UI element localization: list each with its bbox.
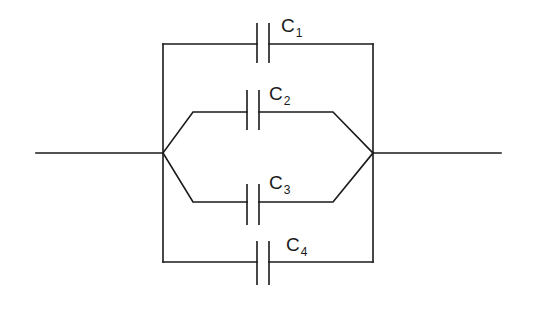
c2-label-symbol: C — [269, 83, 283, 104]
c2-label-subscript: 2 — [284, 94, 291, 108]
c3-branch — [163, 153, 373, 225]
c4-label-subscript: 4 — [301, 245, 308, 259]
c3-label: C3 — [269, 173, 290, 192]
c2-branch — [163, 90, 373, 153]
c1-branch — [163, 23, 373, 63]
c1-label: C1 — [281, 16, 302, 35]
c4-label-symbol: C — [286, 234, 300, 255]
c3-label-symbol: C — [269, 172, 283, 193]
c1-label-subscript: 1 — [296, 26, 303, 40]
c2-label: C2 — [269, 84, 290, 103]
c2-right-wire — [259, 112, 373, 153]
c4-label: C4 — [286, 235, 307, 254]
c1-label-symbol: C — [281, 15, 295, 36]
circuit-diagram — [0, 0, 538, 309]
c2-left-wire — [163, 112, 247, 153]
c3-label-subscript: 3 — [284, 183, 291, 197]
c3-left-wire — [163, 153, 247, 202]
c4-branch — [163, 241, 373, 285]
